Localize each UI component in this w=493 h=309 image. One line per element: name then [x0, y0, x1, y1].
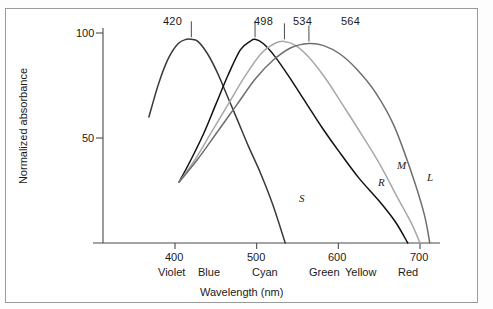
peak-leader-group: [191, 21, 309, 41]
x-tick-group: [175, 243, 420, 249]
curve-m: [179, 41, 420, 243]
peak-label-s: 420: [163, 16, 182, 27]
color-band-green: Green: [309, 267, 340, 278]
color-band-cyan: Cyan: [252, 267, 278, 278]
x-tick-label-700: 700: [410, 252, 428, 263]
y-tick-label-100: 100: [76, 28, 94, 39]
color-band-blue: Blue: [198, 267, 220, 278]
curve-label-s: S: [299, 193, 305, 204]
curve-r: [179, 39, 408, 243]
figure-page: Normalized absorbance 100 50 400 500 600…: [0, 0, 493, 309]
x-tick-label-600: 600: [328, 252, 346, 263]
color-band-violet: Violet: [158, 267, 185, 278]
peak-label-m: 534: [293, 16, 312, 27]
x-axis-title: Wavelength (nm): [200, 287, 283, 298]
curve-l: [179, 43, 430, 243]
y-axis-title: Normalized absorbance: [17, 56, 29, 196]
color-band-red: Red: [398, 267, 418, 278]
x-tick-label-400: 400: [165, 252, 183, 263]
curve-label-m: M: [397, 160, 406, 171]
peak-label-r: 498: [254, 16, 273, 27]
peak-label-l: 564: [341, 16, 360, 27]
curve-s: [149, 39, 285, 243]
curve-group: [149, 39, 430, 243]
curve-label-r: R: [378, 177, 385, 188]
color-band-yellow: Yellow: [345, 267, 376, 278]
x-tick-label-500: 500: [247, 252, 265, 263]
curve-label-l: L: [427, 172, 433, 183]
y-tick-label-50: 50: [82, 133, 94, 144]
